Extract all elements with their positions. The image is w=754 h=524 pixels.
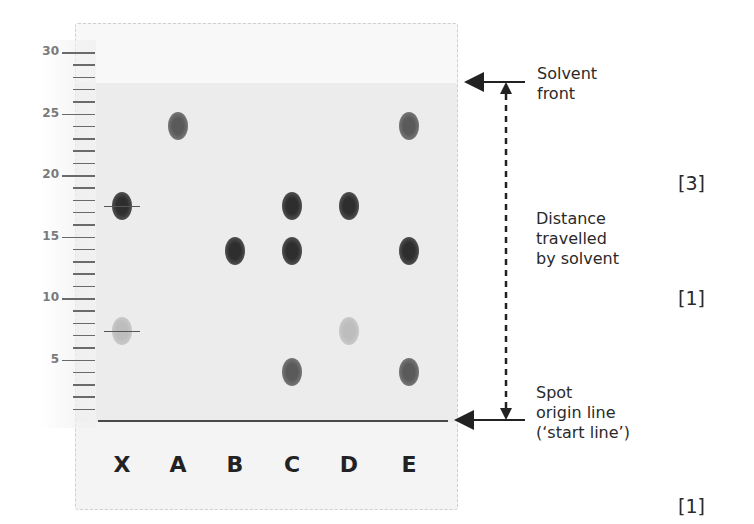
marks-1a: [1] [678, 287, 705, 309]
arrows-layer [0, 0, 754, 524]
marks-1b: [1] [678, 495, 705, 517]
marks-3: [3] [678, 172, 705, 194]
origin-label: Spot origin line (‘start line’) [536, 383, 630, 443]
down-arrowhead-icon [500, 408, 512, 420]
solvent-front-label: Solvent front [537, 64, 597, 104]
distance-label: Distance travelled by solvent [536, 209, 619, 269]
up-arrowhead-icon [500, 82, 512, 94]
